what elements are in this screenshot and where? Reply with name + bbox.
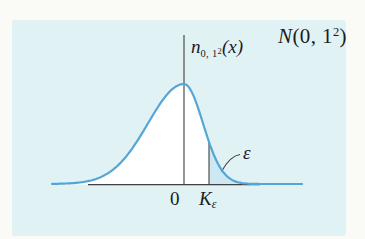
critical-value-symbol: K [199, 188, 212, 209]
distribution-title-close: ) [340, 24, 347, 48]
distribution-title-exponent: 2 [333, 25, 340, 39]
distribution-title-symbol: N [278, 24, 292, 48]
x-tick-critical-value: Kε [199, 189, 216, 210]
critical-value-subscript: ε [212, 197, 217, 211]
x-tick-zero: 0 [170, 189, 180, 208]
distribution-title-params: (0, 1 [292, 24, 333, 48]
density-function-label: n0, 12(x) [191, 37, 243, 60]
distribution-title: N(0, 12) [278, 26, 347, 47]
normal-distribution-figure: n0, 12(x) N(0, 12) 0 Kε ε [0, 0, 365, 239]
density-function-argument: (x) [222, 36, 243, 57]
tail-area-label: ε [243, 143, 251, 162]
density-function-subscript: 0, 12 [201, 48, 223, 59]
density-function-base: n [191, 36, 201, 57]
